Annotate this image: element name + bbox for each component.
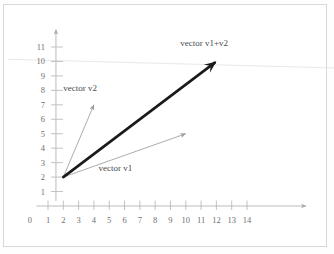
x-tick-label: 4: [92, 215, 97, 225]
x-tick-label: 9: [168, 215, 172, 225]
vector-label-vector-v2: vector v2: [63, 83, 97, 93]
x-tick-label: 3: [76, 215, 80, 225]
vector-diagram-figure: 1234567891011121314 01234567891011 vecto…: [0, 0, 334, 254]
y-tick-label: 4: [41, 143, 46, 153]
vector-label-vector-v1: vector v1: [98, 163, 132, 173]
vector-plot-canvas: 1234567891011121314 01234567891011 vecto…: [0, 0, 334, 254]
y-tick-label: 1: [41, 187, 45, 197]
y-axis-ticks: [51, 47, 63, 192]
x-tick-label: 12: [212, 215, 221, 225]
scan-artifact-group: [8, 59, 334, 68]
x-tick-label: 10: [182, 215, 191, 225]
vector-labels-group: vector v2vector v1vector v1+v2: [63, 38, 228, 172]
x-tick-label: 5: [107, 215, 111, 225]
vector-label-vector-v1-v2: vector v1+v2: [180, 38, 228, 48]
x-tick-label: 1: [46, 215, 50, 225]
x-axis-tick-labels: 1234567891011121314: [46, 215, 252, 225]
x-tick-label: 14: [243, 215, 252, 225]
y-tick-label-origin: 0: [28, 215, 32, 225]
x-tick-label: 6: [122, 215, 126, 225]
y-axis-tick-labels: 01234567891011: [28, 42, 46, 225]
x-tick-label: 13: [227, 215, 236, 225]
y-tick-label: 9: [41, 71, 45, 81]
y-tick-label: 3: [41, 158, 45, 168]
y-tick-label: 10: [36, 56, 45, 66]
y-tick-label: 5: [41, 129, 45, 139]
x-tick-label: 11: [197, 215, 205, 225]
y-tick-label: 11: [37, 42, 45, 52]
vectors-group: [63, 61, 216, 177]
x-tick-label: 8: [153, 215, 157, 225]
scan-artifact-line: [8, 59, 334, 68]
x-tick-label: 2: [61, 215, 65, 225]
x-axis-ticks: [48, 201, 247, 211]
y-tick-label: 8: [41, 85, 45, 95]
axes-group: [37, 30, 306, 206]
y-tick-label: 2: [41, 172, 45, 182]
x-tick-label: 7: [138, 215, 142, 225]
vector-line-vector-v1-v2: [63, 63, 214, 177]
y-tick-label: 6: [41, 114, 45, 124]
y-tick-label: 7: [41, 100, 45, 110]
